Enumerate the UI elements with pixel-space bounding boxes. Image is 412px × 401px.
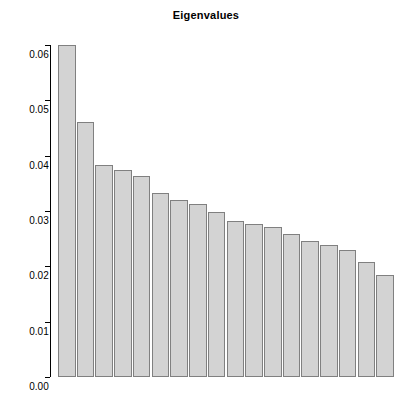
bar: [114, 170, 132, 377]
y-axis-tick-label: 0.05: [0, 100, 43, 101]
bar: [170, 200, 188, 377]
bar: [77, 122, 95, 377]
bar: [264, 227, 282, 377]
y-axis-tick-label: 0.01: [0, 322, 43, 323]
y-axis-tick-label: 0.02: [0, 266, 43, 267]
y-axis-tick: [45, 322, 50, 323]
y-axis-tick: [45, 45, 50, 46]
y-axis-tick: [45, 100, 50, 101]
y-axis-tick: [45, 266, 50, 267]
bar: [301, 241, 319, 377]
y-axis-tick-label: 0.06: [0, 45, 43, 46]
chart-canvas: Eigenvalues 0.000.010.020.030.040.050.06: [0, 0, 412, 401]
bar: [245, 224, 263, 377]
y-axis-line: [50, 45, 51, 377]
bar: [339, 250, 357, 377]
y-axis-tick: [45, 156, 50, 157]
bar: [376, 275, 394, 377]
plot-area: 0.000.010.020.030.040.050.06: [0, 0, 412, 401]
bar: [283, 234, 301, 377]
bar: [208, 212, 226, 377]
bar: [320, 245, 338, 377]
bar: [358, 262, 376, 377]
bar: [95, 165, 113, 377]
bar: [152, 193, 170, 377]
y-axis-tick-label: 0.00: [0, 377, 43, 378]
bar: [58, 45, 76, 377]
bar: [227, 221, 245, 377]
bar: [133, 176, 151, 377]
y-axis-tick-label: 0.03: [0, 211, 43, 212]
y-axis-tick: [45, 211, 50, 212]
y-axis-tick: [45, 377, 50, 378]
bar: [189, 204, 207, 377]
y-axis-tick-label: 0.04: [0, 156, 43, 157]
